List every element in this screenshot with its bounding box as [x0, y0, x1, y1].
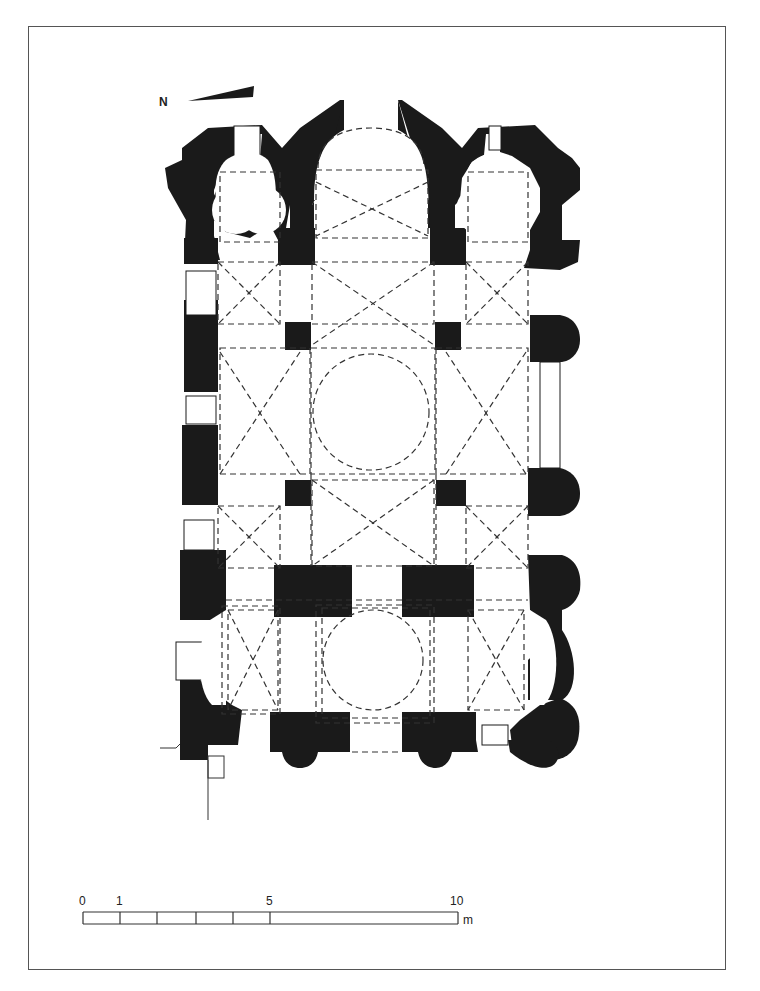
- west-wall-seg3: [180, 550, 226, 620]
- pier-large-w: [274, 565, 352, 617]
- pier-ne: [435, 322, 461, 350]
- apse-voids: [200, 130, 557, 705]
- south-wall-se: [508, 740, 558, 768]
- scale-tick-10: 10: [450, 894, 463, 908]
- scale-tick-0: 0: [79, 894, 86, 908]
- scale-tick-5: 5: [266, 894, 273, 908]
- scale-tick-1: 1: [116, 894, 123, 908]
- door-south-se: [482, 725, 508, 745]
- pier-sw: [285, 480, 311, 506]
- window-w3: [184, 520, 214, 550]
- window-w1: [186, 271, 216, 315]
- east-wall-seg2: [528, 468, 580, 516]
- pier-nw: [285, 322, 311, 350]
- floor-plan: [0, 0, 760, 991]
- west-wall-upper: [184, 238, 218, 264]
- south-wall-w: [270, 712, 350, 768]
- narthex-dome: [323, 610, 423, 710]
- east-window-band: [540, 362, 560, 468]
- central-dome: [313, 354, 429, 470]
- east-wall-seg1: [530, 315, 580, 362]
- pier-large-e: [402, 565, 474, 617]
- scale-unit: m: [463, 913, 473, 927]
- window-w2: [186, 396, 216, 424]
- window-ne-top: [489, 126, 501, 150]
- pier-se: [436, 480, 466, 506]
- north-arrow-icon: [188, 86, 254, 101]
- south-wall-e: [402, 712, 478, 768]
- scale-bar: [83, 912, 458, 924]
- door-central-apse: [344, 98, 398, 106]
- north-label: N: [159, 95, 168, 109]
- west-wall-seg2: [182, 425, 218, 505]
